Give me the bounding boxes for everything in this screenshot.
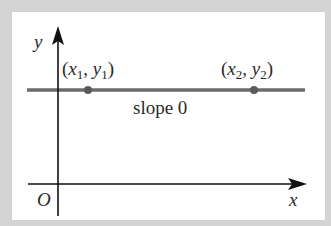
origin-label: O — [37, 189, 51, 210]
x-axis-label: x — [288, 189, 298, 210]
slope-label: slope 0 — [133, 97, 187, 118]
point-1 — [84, 86, 92, 94]
y-axis-label: y — [32, 31, 43, 52]
point-2 — [250, 86, 258, 94]
point-1-label: (x1, y1) — [62, 58, 114, 82]
coordinate-diagram: y x O (x1, y1) (x2, y2) slope 0 — [0, 0, 331, 226]
point-2-label: (x2, y2) — [221, 58, 273, 82]
